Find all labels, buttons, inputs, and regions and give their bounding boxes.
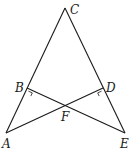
segment-ce — [65, 8, 125, 133]
label-b: B — [14, 81, 24, 95]
geometry-diagram: C B D F A E — [0, 0, 131, 153]
label-f: F — [60, 110, 70, 124]
segment-ac — [6, 8, 65, 133]
right-angle-marker-b — [29, 91, 33, 96]
label-d: D — [105, 81, 116, 95]
label-c: C — [70, 3, 79, 17]
label-a: A — [1, 137, 11, 151]
label-e: E — [119, 137, 129, 151]
right-angle-marker-d — [98, 91, 102, 96]
